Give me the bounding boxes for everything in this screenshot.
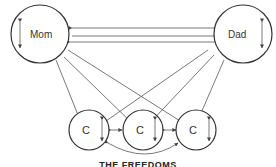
child-node-3: C bbox=[176, 110, 216, 150]
child-label-1: C bbox=[82, 124, 90, 136]
mom-node: Mom bbox=[11, 5, 69, 63]
diagram-caption: THE FREEDOMS bbox=[99, 160, 177, 167]
dad-node: Dad bbox=[214, 5, 272, 63]
dad-label: Dad bbox=[228, 29, 246, 40]
child-label-3: C bbox=[189, 124, 197, 136]
family-diagram: Mom Dad C C C THE FREEDOMS bbox=[0, 0, 276, 167]
child-node-1: C bbox=[69, 110, 109, 150]
mom-label: Mom bbox=[30, 29, 52, 40]
child-label-2: C bbox=[136, 124, 144, 136]
child-node-2: C bbox=[123, 110, 163, 150]
